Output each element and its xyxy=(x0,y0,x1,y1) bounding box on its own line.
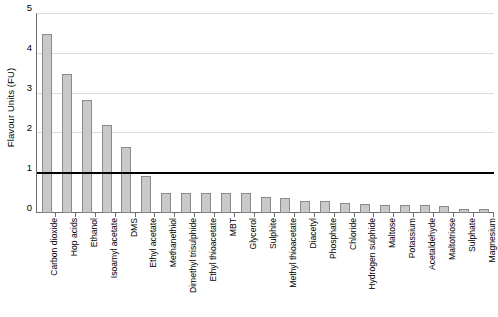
bar[interactable] xyxy=(241,193,251,213)
x-tick xyxy=(76,213,96,217)
x-label-cell: Ethyl acetate xyxy=(136,218,156,314)
x-label-cell: Dimethyl trisulphide xyxy=(175,218,195,314)
x-tick xyxy=(275,213,295,217)
x-tick xyxy=(96,213,116,217)
bar-slot xyxy=(276,14,296,213)
bar[interactable] xyxy=(439,206,449,213)
x-label-cell: MBT xyxy=(215,218,235,314)
bar[interactable] xyxy=(62,74,72,213)
bar-slot xyxy=(355,14,375,213)
x-label-cell: Ethanol xyxy=(76,218,96,314)
bar-slot xyxy=(156,14,176,213)
bar[interactable] xyxy=(320,201,330,213)
x-label-cell: Hydrogen sulphide xyxy=(355,218,375,314)
x-tick xyxy=(394,213,414,217)
x-tick xyxy=(434,213,454,217)
x-tick xyxy=(195,213,215,217)
bar-slot xyxy=(77,14,97,213)
x-label-cell: Chloride xyxy=(335,218,355,314)
x-label-cell: Maltose xyxy=(374,218,394,314)
bar-slot xyxy=(57,14,77,213)
bar[interactable] xyxy=(400,205,410,213)
x-label-cell: Methanethiol xyxy=(155,218,175,314)
bar-slot xyxy=(216,14,236,213)
bar[interactable] xyxy=(42,34,52,213)
bar-slot xyxy=(117,14,137,213)
bar[interactable] xyxy=(102,125,112,213)
x-label-cell: Maltotriose xyxy=(434,218,454,314)
x-label-cell: Acetaldehyde xyxy=(414,218,434,314)
bar-slot xyxy=(196,14,216,213)
y-axis-title: Flavour Units (FU) xyxy=(0,0,22,215)
x-tick xyxy=(295,213,315,217)
plot-area xyxy=(36,13,494,213)
bar-slot xyxy=(415,14,435,213)
x-label-cell: Sulphite xyxy=(255,218,275,314)
bar-slot xyxy=(335,14,355,213)
bar-slot xyxy=(474,14,494,213)
x-tick xyxy=(136,213,156,217)
x-label-cell: Ethyl thioacetate xyxy=(195,218,215,314)
bar[interactable] xyxy=(261,197,271,213)
bar[interactable] xyxy=(161,193,171,213)
x-label-cell: Diacetyl xyxy=(295,218,315,314)
bar-slot xyxy=(176,14,196,213)
x-tick xyxy=(454,213,474,217)
x-label-cell: Carbon dioxide xyxy=(36,218,56,314)
x-tick xyxy=(374,213,394,217)
bar[interactable] xyxy=(141,176,151,213)
bar-slot xyxy=(315,14,335,213)
x-label-cell: Isoamyl acetate xyxy=(96,218,116,314)
bar[interactable] xyxy=(181,193,191,213)
bar-slot xyxy=(236,14,256,213)
bar[interactable] xyxy=(300,201,310,213)
bar[interactable] xyxy=(360,204,370,213)
bar-slot xyxy=(37,14,57,213)
x-tick xyxy=(414,213,434,217)
bar[interactable] xyxy=(459,209,469,213)
bar-slot xyxy=(435,14,455,213)
x-tick xyxy=(116,213,136,217)
bar[interactable] xyxy=(221,193,231,213)
bar[interactable] xyxy=(82,100,92,213)
bars-group xyxy=(37,14,494,213)
bar[interactable] xyxy=(479,209,489,213)
bar[interactable] xyxy=(121,147,131,213)
x-label-cell: Sulphate xyxy=(454,218,474,314)
x-axis-ticks xyxy=(36,213,494,217)
bar[interactable] xyxy=(340,203,350,213)
bar-slot xyxy=(256,14,276,213)
y-tick-label: 2 xyxy=(27,123,32,133)
x-label-cell: Methyl thioacetate xyxy=(275,218,295,314)
x-tick xyxy=(175,213,195,217)
bar[interactable] xyxy=(280,198,290,213)
x-tick xyxy=(36,213,56,217)
y-axis-tick-labels: 012345 xyxy=(22,8,34,214)
x-label-cell: Glycerol xyxy=(235,218,255,314)
bar-slot xyxy=(295,14,315,213)
bar-slot xyxy=(395,14,415,213)
x-axis-category-labels: Carbon dioxideHop acidsEthanolIsoamyl ac… xyxy=(36,218,494,314)
bar[interactable] xyxy=(380,205,390,213)
x-label-cell: Magnesium xyxy=(474,218,494,314)
y-tick-label: 3 xyxy=(27,83,32,93)
y-tick-label: 4 xyxy=(27,43,32,53)
x-tick xyxy=(315,213,335,217)
bar[interactable] xyxy=(420,205,430,213)
bar-slot xyxy=(375,14,395,213)
flavour-units-bar-chart: Flavour Units (FU) 012345 Carbon dioxide… xyxy=(0,0,498,317)
bar-slot xyxy=(136,14,156,213)
x-axis-label: Magnesium xyxy=(488,218,497,262)
x-label-cell: Potassium xyxy=(394,218,414,314)
y-tick-label: 5 xyxy=(27,3,32,13)
x-tick xyxy=(335,213,355,217)
x-label-cell: Phosphate xyxy=(315,218,335,314)
x-tick xyxy=(235,213,255,217)
threshold-reference-line xyxy=(37,172,494,175)
bar[interactable] xyxy=(201,193,211,213)
x-tick xyxy=(215,213,235,217)
bar-slot xyxy=(454,14,474,213)
y-tick-label: 1 xyxy=(27,163,32,173)
x-label-cell: Hop acids xyxy=(56,218,76,314)
bar-slot xyxy=(97,14,117,213)
